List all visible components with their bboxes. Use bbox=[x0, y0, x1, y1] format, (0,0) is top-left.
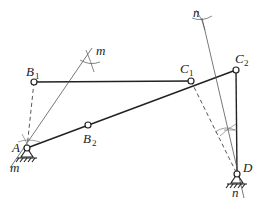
linkage-diagram: A B 1 B 2 C 1 C 2 D m m n n bbox=[0, 0, 262, 209]
label-b1-sub: 1 bbox=[35, 71, 40, 81]
label-c1: C bbox=[180, 61, 189, 76]
label-d: D bbox=[242, 160, 253, 175]
label-n-bottom: n bbox=[232, 185, 239, 200]
label-c1-sub: 1 bbox=[189, 68, 194, 78]
label-c2: C bbox=[235, 51, 244, 66]
link-b1-c1 bbox=[34, 81, 191, 82]
label-a: A bbox=[11, 140, 20, 155]
label-b2: B bbox=[83, 131, 91, 146]
joint-b2 bbox=[85, 122, 91, 128]
construction-arcs bbox=[18, 124, 237, 152]
label-b2-sub: 2 bbox=[92, 138, 97, 148]
label-n-top: n bbox=[193, 5, 200, 20]
link-c2-d bbox=[236, 70, 237, 174]
joint-d bbox=[234, 171, 240, 177]
label-m-bottom: m bbox=[10, 160, 19, 175]
label-b1: B bbox=[26, 64, 34, 79]
joint-c2 bbox=[233, 67, 239, 73]
joint-a bbox=[24, 145, 30, 151]
label-m-top: m bbox=[96, 43, 105, 58]
bisector-m bbox=[10, 48, 92, 168]
joint-c1 bbox=[188, 78, 194, 84]
label-c2-sub: 2 bbox=[244, 58, 249, 68]
